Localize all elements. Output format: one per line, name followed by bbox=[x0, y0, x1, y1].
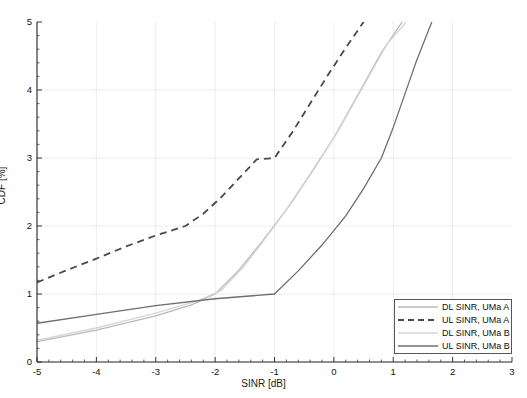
series-line-1 bbox=[37, 22, 364, 282]
y-tick-label: 3 bbox=[27, 152, 32, 163]
series-line-2 bbox=[37, 22, 406, 340]
legend-item: UL SINR, UMa A bbox=[395, 313, 511, 326]
x-tick-label: 3 bbox=[509, 366, 514, 377]
x-tick-label: 0 bbox=[331, 366, 336, 377]
legend-label-3: UL SINR, UMa B bbox=[442, 341, 510, 351]
x-axis-label: SINR [dB] bbox=[0, 378, 527, 389]
legend[interactable]: DL SINR, UMa A UL SINR, UMa A DL SINR, U… bbox=[394, 299, 512, 354]
legend-label-2: DL SINR, UMa B bbox=[442, 328, 510, 338]
y-tick-label: 0 bbox=[27, 356, 32, 367]
x-tick-label: -3 bbox=[152, 366, 160, 377]
legend-item: DL SINR, UMa B bbox=[395, 326, 511, 339]
y-tick-label: 5 bbox=[27, 16, 32, 27]
legend-swatch-0 bbox=[398, 302, 438, 312]
chart-figure: -5-4-3-2-10123012345 SINR [dB] CDF [%] D… bbox=[0, 0, 527, 398]
legend-label-1: UL SINR, UMa A bbox=[442, 315, 509, 325]
y-tick-label: 4 bbox=[27, 84, 32, 95]
x-tick-label: -2 bbox=[211, 366, 219, 377]
legend-swatch-3 bbox=[398, 341, 438, 351]
x-tick-label: 2 bbox=[450, 366, 455, 377]
x-tick-label: -1 bbox=[270, 366, 278, 377]
legend-label-0: DL SINR, UMa A bbox=[442, 302, 509, 312]
legend-swatch-2 bbox=[398, 328, 438, 338]
y-tick-label: 1 bbox=[27, 288, 32, 299]
x-tick-label: 1 bbox=[391, 366, 396, 377]
legend-item: DL SINR, UMa A bbox=[395, 300, 511, 313]
legend-swatch-1 bbox=[398, 315, 438, 325]
x-tick-label: -5 bbox=[33, 366, 41, 377]
legend-item: UL SINR, UMa B bbox=[395, 339, 511, 352]
y-tick-label: 2 bbox=[27, 220, 32, 231]
x-tick-label: -4 bbox=[92, 366, 100, 377]
y-axis-label: CDF [%] bbox=[0, 167, 7, 205]
